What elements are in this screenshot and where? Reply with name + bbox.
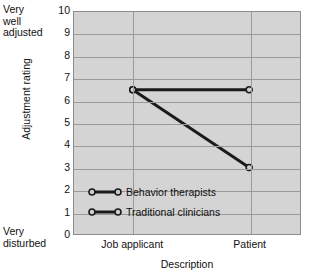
legend-item[interactable]: Behavior therapists [88,186,216,198]
gridline-vertical [133,12,134,234]
gridline-horizontal [74,146,300,147]
y-axis-tick: 7 [52,71,70,83]
y-axis-tick: 5 [52,116,70,128]
y-axis-tick: 6 [52,94,70,106]
y-axis-bottom-annotation: Very disturbed [3,226,55,249]
y-axis-tick: 10 [52,4,70,16]
series-layer [74,12,300,234]
y-axis-tick: 4 [52,138,70,150]
legend-item[interactable]: Traditional clinicians [88,206,220,218]
gridline-horizontal [74,169,300,170]
y-axis-top-annotation: Very well adjusted [3,4,51,39]
legend-marker-icon [88,187,122,197]
plot-area [73,11,301,235]
gridline-horizontal [74,124,300,125]
y-axis-tick: 8 [52,49,70,61]
y-axis-tick: 9 [52,26,70,38]
gridline-horizontal [74,79,300,80]
legend-marker-icon [88,207,122,217]
gridline-horizontal [74,34,300,35]
y-axis-tick: 3 [52,161,70,173]
y-axis-label-wrapper: Adjustment rating [16,39,30,159]
y-axis-tick: 2 [52,183,70,195]
gridline-vertical [251,12,252,234]
chart-container: Very well adjusted Very disturbed Adjust… [0,0,316,280]
y-axis-tick: 0 [52,228,70,240]
x-axis-tick-labels: Job applicantPatient [73,238,301,252]
y-axis-tick: 1 [52,206,70,218]
data-series [130,87,252,93]
gridline-horizontal [74,57,300,58]
gridline-horizontal [74,102,300,103]
x-axis-label: Description [73,258,301,270]
x-axis-tick: Patient [233,238,266,250]
data-series [130,87,252,171]
legend-label: Behavior therapists [126,186,216,198]
y-axis-label: Adjustment rating [20,58,32,140]
x-axis-tick: Job applicant [101,238,163,250]
legend-label: Traditional clinicians [126,206,220,218]
y-axis-tick-labels: 109876543210 [52,0,70,240]
